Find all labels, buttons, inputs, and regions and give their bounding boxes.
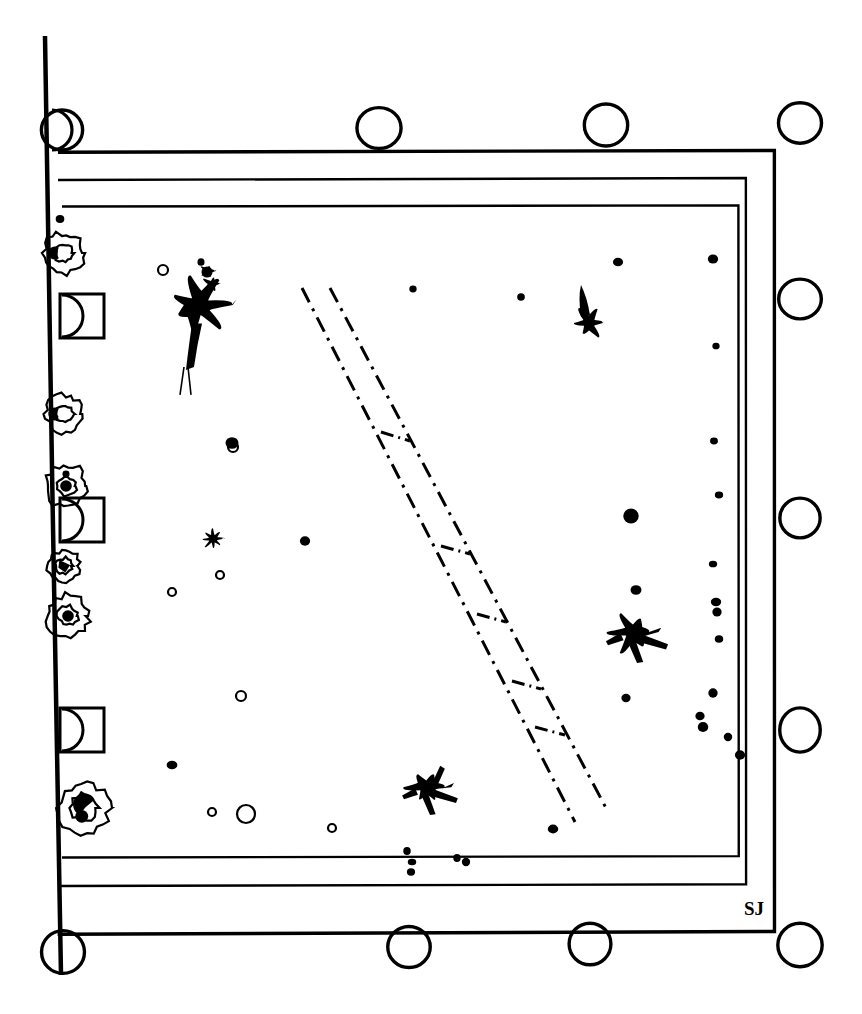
speckle-dot-10 [300, 536, 310, 545]
speckle-dot-29 [407, 868, 415, 875]
speckle-dot-13 [715, 492, 723, 499]
speckle-dot-1 [197, 258, 204, 266]
speckle-dot-8 [56, 215, 65, 223]
speckle-dot-28 [408, 859, 416, 866]
speckle-dot-5 [613, 258, 623, 267]
signature-initials: SJ [744, 898, 764, 919]
speckle-dot-27 [403, 847, 410, 855]
speckle-dot-12 [623, 508, 638, 523]
speckle-dot-4 [517, 293, 525, 301]
margin-blobring-5-pupil [62, 610, 74, 622]
speckle-dot-26 [548, 825, 558, 834]
speckle-dot-14 [631, 585, 642, 595]
speckle-dot-6 [708, 254, 718, 263]
speckle-dot-24 [735, 750, 745, 759]
margin-blobring-6-pupil-dot [75, 810, 88, 823]
speckle-dot-7 [712, 343, 719, 350]
speckle-dot-22 [698, 722, 708, 732]
speckle-dot-31 [462, 858, 470, 866]
figure-root: SJ [0, 0, 862, 1014]
plate-illustration: SJ [0, 0, 862, 1014]
speckle-dot-20 [708, 688, 717, 697]
speckle-dot-32 [62, 471, 69, 478]
speckle-dot-21 [695, 712, 704, 721]
speckle-dot-2 [201, 266, 212, 277]
speckle-dot-30 [453, 854, 460, 862]
speckle-dot-17 [712, 607, 721, 616]
margin-blobring-3-pupil [60, 480, 72, 492]
speckle-dot-18 [715, 635, 723, 643]
speckle-dot-11 [710, 438, 718, 445]
speckle-dot-25 [167, 761, 178, 770]
speckle-dot-19 [621, 694, 630, 702]
speckle-dot-15 [709, 561, 717, 568]
speckle-dot-23 [724, 733, 732, 741]
speckle-dot-16 [711, 598, 721, 606]
speckle-dot-3 [409, 286, 416, 293]
